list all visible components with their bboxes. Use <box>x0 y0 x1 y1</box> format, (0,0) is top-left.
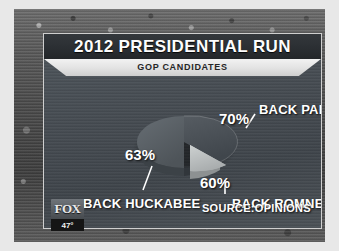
broadcast-graphic-panel: 2012 PRESIDENTIAL RUN GOP CANDIDATES <box>43 33 322 229</box>
television-photo-backdrop: 2012 PRESIDENTIAL RUN GOP CANDIDATES <box>14 9 325 242</box>
slice-value-romney: 60% <box>200 174 230 191</box>
slice-label-huckabee: BACK HUCKABEE <box>83 196 200 211</box>
temperature-value: 47° <box>61 221 73 230</box>
page-title: 2012 PRESIDENTIAL RUN <box>74 37 291 57</box>
fox-logo-icon: FOX <box>51 199 84 219</box>
slice-value-palin: 70% <box>219 110 249 127</box>
temperature-readout: 47° <box>51 219 84 231</box>
network-bug: FOX 47° <box>51 199 84 231</box>
source-attribution: SOURCE:OPINIONS <box>202 202 311 214</box>
slice-label-palin: BACK PALIN <box>259 102 322 117</box>
fox-logo-text: FOX <box>55 201 81 217</box>
source-attribution-second-line: DYNAMIC <box>250 227 313 229</box>
screenshot-root: 2012 PRESIDENTIAL RUN GOP CANDIDATES <box>0 0 339 251</box>
subtitle-text: GOP CANDIDATES <box>137 62 227 72</box>
leader-line-huckabee <box>143 166 152 190</box>
slice-value-huckabee: 63% <box>125 146 155 163</box>
pie-chart: 70% 63% 60% BACK PALIN BACK HUCKABEE BAC… <box>44 76 321 229</box>
title-bar: 2012 PRESIDENTIAL RUN <box>44 34 321 59</box>
subtitle-bar: GOP CANDIDATES <box>44 59 321 76</box>
